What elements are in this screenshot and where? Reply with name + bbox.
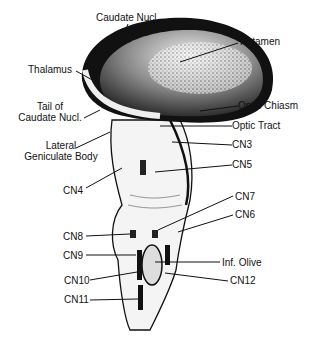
- label-inferior-olive: Inf. Olive: [222, 257, 261, 268]
- label-tail-line2: Caudate Nucl.: [14, 112, 86, 123]
- label-tail-line1: Tail of: [14, 101, 86, 112]
- label-lgb-line1: Lateral: [22, 140, 100, 151]
- label-cn5: CN5: [232, 159, 252, 170]
- label-thalamus: Thalamus: [28, 64, 72, 75]
- label-optic-chiasm: Optic Chiasm: [238, 100, 298, 111]
- label-cn8: CN8: [63, 231, 83, 242]
- brainstem-drawing: [0, 0, 316, 351]
- label-putamen: Putamen: [240, 36, 280, 47]
- label-cn11: CN11: [64, 294, 89, 305]
- label-cn3: CN3: [232, 139, 252, 150]
- label-cn10: CN10: [64, 275, 90, 286]
- label-cn7: CN7: [235, 191, 255, 202]
- label-cn9: CN9: [63, 250, 83, 261]
- label-lateral-geniculate-body: Lateral Geniculate Body: [22, 140, 100, 162]
- label-cn4: CN4: [63, 185, 83, 196]
- label-caudate-nucleus: Caudate Nucl.: [96, 12, 159, 23]
- label-cn12: CN12: [230, 275, 256, 286]
- brainstem-diagram: Caudate Nucl. Putamen Thalamus Tail of C…: [0, 0, 316, 351]
- label-optic-tract: Optic Tract: [232, 120, 280, 131]
- label-tail-caudate: Tail of Caudate Nucl.: [14, 101, 86, 123]
- label-cn6: CN6: [235, 209, 255, 220]
- label-lgb-line2: Geniculate Body: [22, 151, 100, 162]
